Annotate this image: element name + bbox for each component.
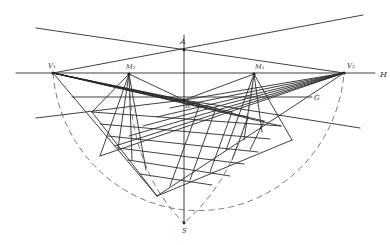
upper-line-left [36, 28, 344, 73]
semicircle-arc [53, 73, 344, 211]
label-B: B [184, 102, 190, 110]
point-M1 [252, 72, 255, 75]
label-V1: V₁ [48, 62, 56, 70]
rays-from-V1 [53, 73, 281, 196]
label-S: S [182, 227, 187, 235]
rays-from-M1 [184, 74, 292, 150]
point-B [183, 99, 186, 102]
point-A [183, 49, 186, 52]
rays-from-M2 [92, 74, 184, 170]
label-G: G [314, 94, 320, 102]
label-M2: M₂ [125, 63, 136, 71]
upper-line-right [53, 15, 363, 73]
point-S [183, 222, 186, 225]
label-M1: M₁ [254, 63, 264, 71]
label-A: A [179, 37, 186, 46]
perspective-diagram: A B S V₁ V₂ M₁ M₂ H G [0, 0, 390, 245]
point-V1 [51, 71, 54, 74]
label-H: H [379, 70, 388, 79]
point-M2 [127, 72, 130, 75]
label-V2: V₂ [347, 62, 355, 70]
point-V2 [342, 71, 345, 74]
